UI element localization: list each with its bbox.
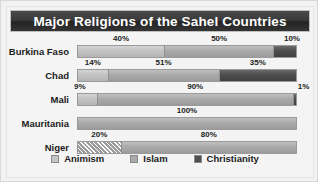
segment-value-label: 14% (78, 58, 108, 68)
segment-value-label: 80% (122, 130, 296, 140)
chart-title-bar: Major Religions of the Sahel Countries (10, 10, 310, 32)
segment-value-label: 90% (98, 82, 293, 92)
segment-value-label: 10% (278, 34, 300, 44)
bar-segment-animism: 9% (78, 94, 98, 105)
segment-value-label: 20% (78, 130, 121, 140)
segment-value-label: 35% (220, 58, 296, 68)
bar-row: Mali9%90%1% (1, 83, 309, 107)
segment-value-label: 50% (165, 34, 273, 44)
legend-swatch-icon (130, 155, 138, 163)
bar-segment-animism: 14% (78, 70, 109, 81)
bar-track: 14%51%35% (77, 69, 297, 82)
legend-swatch-icon (51, 155, 59, 163)
bar-segment-islam: 80% (122, 142, 296, 153)
bar-segment-animism: 40% (78, 46, 165, 57)
bar-segment-islam: 90% (98, 94, 294, 105)
segment-value-label: 9% (74, 82, 93, 92)
bar-row: Chad14%51%35% (1, 59, 309, 83)
bar-track: 100% (77, 117, 297, 130)
legend-label: Christianity (207, 153, 259, 164)
legend-item[interactable]: Animism (51, 153, 104, 164)
bar-segment-islam: 51% (109, 70, 220, 81)
legend-item[interactable]: Christianity (194, 153, 259, 164)
bar-segment-islam: 100% (78, 118, 296, 129)
bar-segment-christianity: 1% (294, 94, 296, 105)
bar-track: 9%90%1% (77, 93, 297, 106)
legend-label: Animism (64, 153, 104, 164)
country-label: Mali (1, 94, 69, 106)
segment-value-label: 51% (109, 58, 219, 68)
bar-row: Mauritania100% (1, 107, 309, 131)
country-label: Burkina Faso (1, 46, 69, 58)
bar-track: 40%50%10% (77, 45, 297, 58)
country-label: Chad (1, 70, 69, 82)
segment-value-label: 100% (78, 106, 296, 116)
chart-container: Major Religions of the Sahel Countries B… (0, 0, 318, 182)
segment-value-label: 40% (78, 34, 164, 44)
chart-legend: AnimismIslamChristianity (1, 153, 309, 164)
bar-segment-islam: 50% (165, 46, 274, 57)
segment-value-label: 1% (298, 82, 300, 92)
legend-item[interactable]: Islam (130, 153, 167, 164)
bar-segment-christianity: 35% (220, 70, 296, 81)
legend-label: Islam (143, 153, 167, 164)
bar-segment-animism: 20% (78, 142, 122, 153)
bar-row: Burkina Faso40%50%10% (1, 35, 309, 59)
bar-row: Niger20%80% (1, 131, 309, 155)
legend-swatch-icon (194, 155, 202, 163)
page-title: Major Religions of the Sahel Countries (33, 14, 286, 29)
chart-plot-area: Burkina Faso40%50%10%Chad14%51%35%Mali9%… (1, 35, 309, 147)
country-label: Mauritania (1, 118, 69, 130)
bar-segment-christianity: 10% (274, 46, 296, 57)
